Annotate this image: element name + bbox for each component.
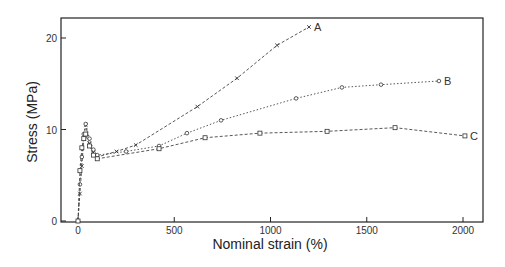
square-marker (91, 153, 95, 157)
x-marker (275, 44, 279, 48)
y-tick-label: 10 (46, 125, 58, 136)
series-label-a: A (314, 21, 322, 33)
x-marker (235, 76, 239, 80)
x-tick-label: 1500 (356, 225, 379, 236)
y-axis-title: Stress (MPa) (24, 81, 40, 163)
circle-marker (78, 183, 82, 187)
series-label-b: B (444, 75, 451, 87)
circle-marker (294, 97, 298, 101)
square-marker (78, 169, 82, 173)
series-line (78, 128, 465, 221)
circle-marker (379, 83, 383, 87)
x-marker (307, 25, 311, 29)
y-tick-label: 20 (46, 33, 58, 44)
stress-strain-chart: 050010001500200001020 ABC Nominal strain… (0, 0, 505, 267)
circle-marker (88, 137, 92, 141)
circle-marker (219, 119, 223, 123)
x-tick-label: 2000 (452, 225, 475, 236)
square-marker (325, 129, 329, 133)
square-marker (258, 131, 262, 135)
square-marker (157, 147, 161, 151)
series-c: C (76, 126, 478, 223)
square-marker (82, 137, 86, 141)
x-tick-label: 1000 (259, 225, 282, 236)
circle-marker (92, 148, 96, 152)
square-marker (88, 144, 92, 148)
square-marker (95, 157, 99, 161)
square-marker (463, 134, 467, 138)
x-marker (196, 105, 200, 109)
series-line (78, 81, 439, 221)
square-marker (76, 219, 80, 223)
series-lines: ABC (76, 21, 478, 223)
circle-marker (185, 131, 189, 135)
series-a: A (76, 21, 322, 223)
x-tick-label: 0 (75, 225, 81, 236)
plot-frame (61, 18, 483, 222)
y-tick-label: 0 (51, 216, 57, 227)
circle-marker (84, 122, 88, 126)
square-marker (393, 126, 397, 130)
x-axis-title: Nominal strain (%) (212, 236, 327, 252)
series-b: B (76, 75, 451, 223)
series-label-c: C (470, 130, 478, 142)
circle-marker (340, 86, 344, 90)
square-marker (84, 132, 88, 136)
square-marker (203, 136, 207, 140)
x-tick-label: 500 (166, 225, 183, 236)
square-marker (80, 146, 84, 150)
plot-border (61, 18, 483, 222)
series-line (78, 27, 309, 221)
circle-marker (124, 150, 128, 154)
circle-marker (437, 79, 441, 83)
